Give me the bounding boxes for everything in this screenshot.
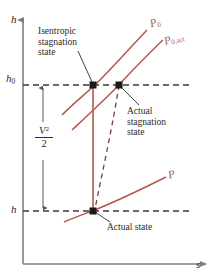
- kinetic-energy-exponent: 2: [45, 125, 49, 133]
- y-axis-label: h: [11, 13, 17, 25]
- h0-tick-label: h0: [6, 72, 15, 86]
- actual-process-dashed-line: [95, 85, 119, 209]
- curve-p: [64, 177, 166, 222]
- kinetic-energy-numerator: V2: [35, 125, 53, 136]
- leader-actual-state: [95, 212, 110, 222]
- state-point-markers: [90, 82, 123, 215]
- isentropic-stagnation-state-line-2: stagnation: [38, 37, 77, 48]
- actual-stagnation-state-point: [116, 82, 123, 89]
- leader-isentropic-stagnation: [78, 51, 92, 82]
- isentropic-stagnation-state-label: Isentropic stagnation state: [38, 26, 77, 58]
- kinetic-energy-term: V2 2: [35, 125, 53, 149]
- isentropic-stagnation-state-point: [90, 82, 97, 89]
- kinetic-energy-denominator: 2: [35, 138, 53, 149]
- actual-stagnation-state-line-3: state: [127, 127, 166, 138]
- isentropic-stagnation-state-line-1: Isentropic: [38, 26, 77, 37]
- actual-state-label: Actual state: [107, 222, 152, 233]
- actual-stagnation-state-line-2: stagnation: [127, 117, 166, 128]
- actual-stagnation-state-line-1: Actual: [127, 106, 166, 117]
- actual-state-point: [90, 208, 97, 215]
- hs-diagram-figure: h s h0 h P0 P0,act P Isentropic stagnati…: [0, 0, 221, 280]
- isentropic-stagnation-state-line-3: state: [38, 47, 77, 58]
- actual-stagnation-state-label: Actual stagnation state: [127, 106, 166, 138]
- leader-actual-stagnation: [121, 87, 139, 105]
- h-tick-label: h: [11, 203, 17, 215]
- diagram-canvas: [0, 0, 221, 280]
- process-lines: [93, 85, 119, 211]
- x-axis-label: s: [196, 258, 200, 270]
- h0-tick-label-subscript: 0: [12, 77, 16, 86]
